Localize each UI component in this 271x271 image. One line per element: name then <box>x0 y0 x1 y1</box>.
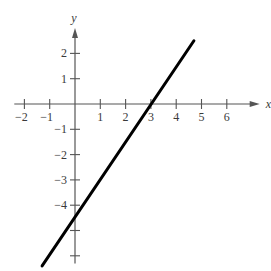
x-tick-label: −2 <box>15 110 28 124</box>
tick-labels: −2−112345621−1−2−3−4 <box>15 46 230 212</box>
x-tick-label: 5 <box>199 110 205 124</box>
y-tick-label: 1 <box>61 72 67 86</box>
x-axis-label: x <box>265 97 271 111</box>
axes <box>14 28 259 263</box>
x-axis-arrow-icon <box>250 101 260 107</box>
x-tick-label: 2 <box>123 110 129 124</box>
y-tick-label: −4 <box>54 198 67 212</box>
x-tick-label: −1 <box>40 110 53 124</box>
y-axis-label: y <box>70 11 77 25</box>
y-tick-label: −2 <box>54 148 67 162</box>
y-tick-label: −1 <box>54 122 67 136</box>
x-tick-label: 4 <box>173 110 179 124</box>
y-tick-label: 2 <box>61 46 67 60</box>
x-tick-label: 6 <box>224 110 230 124</box>
y-tick-label: −3 <box>54 173 67 187</box>
line-graph: −2−112345621−1−2−3−4 x y <box>0 0 271 271</box>
x-tick-label: 3 <box>148 110 154 124</box>
x-tick-label: 1 <box>97 110 103 124</box>
y-axis-arrow-icon <box>72 28 78 38</box>
